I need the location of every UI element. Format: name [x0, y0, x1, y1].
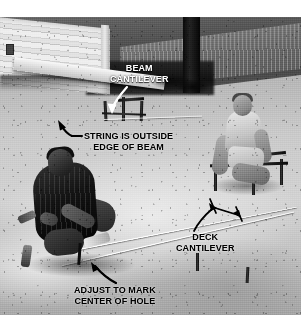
callout-beam-cantilever: BEAM CANTILEVER	[110, 63, 169, 84]
beam-cantilever-arrow-icon	[108, 87, 128, 114]
annotated-photo-figure: BEAM CANTILEVER STRING IS OUTSIDE EDGE O…	[0, 0, 301, 315]
callout-string-outside-edge: STRING IS OUTSIDE EDGE OF BEAM	[84, 131, 173, 152]
string-outside-arrow-icon	[58, 120, 82, 136]
annotation-arrows	[0, 17, 301, 315]
callout-adjust-to-mark: ADJUST TO MARK CENTER OF HOLE	[74, 285, 156, 306]
callout-deck-cantilever: DECK CANTILEVER	[176, 232, 235, 253]
photograph: BEAM CANTILEVER STRING IS OUTSIDE EDGE O…	[0, 17, 301, 315]
top-white-margin	[0, 0, 301, 17]
adjust-to-mark-arrow-icon	[91, 262, 116, 283]
deck-cantilever-dimension-icon	[194, 199, 242, 231]
